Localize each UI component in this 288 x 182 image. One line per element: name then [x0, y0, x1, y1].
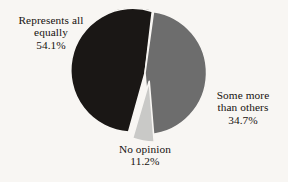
pie-label-some-more-than-others: Some more than others 34.7% [200, 89, 286, 126]
pie-label-value: 54.1% [6, 39, 96, 51]
pie-label-value: 11.2% [96, 155, 194, 167]
pie-label-line: equally [6, 26, 96, 38]
pie-label-line: No opinion [96, 143, 194, 155]
pie-label-line: Some more [200, 89, 286, 101]
pie-label-line: than others [200, 101, 286, 113]
pie-slice-some-more-than-others[interactable] [145, 12, 207, 135]
pie-chart: Represents all equally 54.1% Some more t… [0, 0, 288, 182]
pie-label-represents-all-equally: Represents all equally 54.1% [6, 14, 96, 51]
pie-label-value: 34.7% [200, 114, 286, 126]
pie-label-no-opinion: No opinion 11.2% [96, 143, 194, 168]
pie-label-line: Represents all [6, 14, 96, 26]
